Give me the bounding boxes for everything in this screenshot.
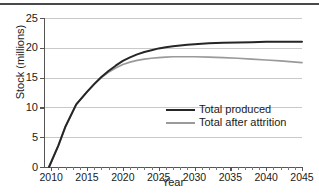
legend-label-total-produced: Total produced [199, 103, 271, 116]
x-tick-minor [94, 167, 95, 170]
x-tick-minor [281, 167, 282, 170]
gridline [44, 18, 302, 19]
x-tick-minor [223, 167, 224, 170]
x-tick-minor [245, 167, 246, 170]
y-tick-label: 5 [0, 132, 38, 143]
y-tick [40, 167, 44, 168]
x-tick-minor [180, 167, 181, 170]
y-tick [40, 137, 44, 138]
y-tick [40, 18, 44, 19]
x-tick-label: 2010 [31, 172, 71, 183]
y-axis-line [44, 18, 45, 167]
x-tick-minor [58, 167, 59, 170]
x-tick-minor [288, 167, 289, 170]
x-tick-label: 2030 [175, 172, 215, 183]
x-tick-minor [238, 167, 239, 170]
legend-swatch-total-produced [166, 109, 195, 111]
x-tick-minor [173, 167, 174, 170]
x-tick-minor [137, 167, 138, 170]
x-tick-minor [216, 167, 217, 170]
x-tick-minor [73, 167, 74, 170]
y-tick-label: 0 [0, 162, 38, 173]
x-tick-label: 2045 [282, 172, 319, 183]
x-tick-minor [252, 167, 253, 170]
x-tick-label: 2020 [103, 172, 143, 183]
y-tick-label: 20 [0, 42, 38, 53]
x-tick-minor [202, 167, 203, 170]
gridline [44, 48, 302, 49]
x-tick-minor [166, 167, 167, 170]
x-tick-minor [152, 167, 153, 170]
x-tick-label: 2015 [67, 172, 107, 183]
y-tick [40, 78, 44, 79]
gridline [44, 78, 302, 79]
x-tick-minor [209, 167, 210, 170]
y-tick-label: 15 [0, 72, 38, 83]
x-tick-minor [144, 167, 145, 170]
legend-item-total-produced: Total produced [166, 103, 306, 116]
x-tick-minor [130, 167, 131, 170]
y-tick [40, 48, 44, 49]
y-tick-label: 10 [0, 102, 38, 113]
x-tick-minor [259, 167, 260, 170]
chart-legend: Total produced Total after attrition [166, 103, 306, 129]
legend-item-total-after-attrition: Total after attrition [166, 116, 306, 129]
x-tick-minor [295, 167, 296, 170]
x-tick-minor [80, 167, 81, 170]
top-divider-rule [0, 3, 319, 5]
x-tick-minor [109, 167, 110, 170]
x-tick-minor [273, 167, 274, 170]
x-tick-minor [116, 167, 117, 170]
x-tick-minor [187, 167, 188, 170]
legend-label-total-after-attrition: Total after attrition [199, 116, 286, 129]
x-tick-minor [101, 167, 102, 170]
y-tick [40, 107, 44, 108]
x-tick-label: 2040 [246, 172, 286, 183]
x-tick-label: 2025 [139, 172, 179, 183]
chart-figure: Stock (millions) Year 0510152025 2010201… [0, 0, 319, 193]
plot-area [44, 18, 302, 167]
legend-swatch-total-after-attrition [166, 122, 195, 124]
gridline [44, 137, 302, 138]
x-tick-minor [66, 167, 67, 170]
y-tick-label: 25 [0, 13, 38, 24]
x-tick-label: 2035 [210, 172, 250, 183]
